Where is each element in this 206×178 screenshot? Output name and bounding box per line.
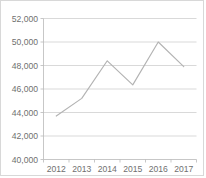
x-tick-label: 2012 [47,164,66,174]
gridlines-group [44,19,197,137]
y-tick-label: 52,000 [12,14,39,24]
y-tick-labels-group: 40,00042,00044,00046,00048,00050,00052,0… [12,14,39,165]
y-tick-label: 50,000 [12,37,39,47]
x-tick-labels-group: 201220132014201520162017 [47,164,194,174]
y-tick-label: 48,000 [12,61,39,71]
y-tick-label: 42,000 [12,131,39,141]
data-series-line [56,42,184,116]
x-tick-marks-group [44,160,197,163]
y-tick-label: 46,000 [12,84,39,94]
y-tick-label: 40,000 [12,155,39,165]
x-tick-label: 2015 [123,164,142,174]
x-tick-label: 2017 [174,164,193,174]
x-tick-label: 2014 [98,164,117,174]
y-tick-marks-group [41,19,44,160]
chart-container: 40,00042,00044,00046,00048,00050,00052,0… [0,0,204,176]
y-tick-label: 44,000 [12,108,39,118]
x-tick-label: 2013 [72,164,91,174]
line-chart-svg: 40,00042,00044,00046,00048,00050,00052,0… [1,1,205,177]
x-tick-label: 2016 [149,164,168,174]
plot-area: 40,00042,00044,00046,00048,00050,00052,0… [1,1,205,177]
